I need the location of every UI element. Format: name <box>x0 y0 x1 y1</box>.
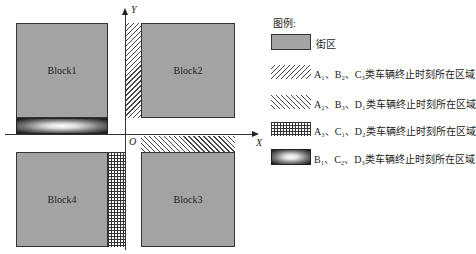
legend-swatch-backward-hatch <box>271 95 311 109</box>
legend-text-grid: A₃、C₁、D₂类车辆终止时刻所在区域 <box>314 123 476 138</box>
block-3: Block3 <box>141 152 235 247</box>
legend-text-forward-hatch: A₁、B₂、C₃类车辆终止时刻所在区域 <box>314 66 475 81</box>
zone-backward-hatch <box>141 136 235 152</box>
legend-swatch-forward-hatch <box>271 65 311 79</box>
block-2-label: Block2 <box>174 65 203 76</box>
x-axis-label: X <box>256 137 262 148</box>
legend-text-block: 街区 <box>316 36 336 51</box>
legend-text-gradient: B₁、C₂、D₃类车辆终止时刻所在区域 <box>314 151 475 166</box>
zone-grid <box>108 152 125 247</box>
block-4-label: Block4 <box>48 194 77 205</box>
zone-forward-hatch <box>125 23 141 118</box>
legend-swatch-gradient <box>271 149 311 165</box>
legend-swatch-grid <box>271 122 311 136</box>
block-3-label: Block3 <box>174 194 203 205</box>
y-axis <box>125 10 126 250</box>
y-axis-arrow-icon <box>122 8 128 15</box>
zone-gradient <box>16 118 108 134</box>
y-axis-label: Y <box>131 4 137 15</box>
legend-swatch-block <box>271 34 311 50</box>
block-1: Block1 <box>16 23 108 118</box>
block-4: Block4 <box>16 152 108 247</box>
origin-label: O <box>129 136 136 147</box>
legend-title: 图例: <box>273 15 296 30</box>
block-2: Block2 <box>141 23 235 118</box>
x-axis <box>5 134 257 135</box>
block-1-label: Block1 <box>48 65 77 76</box>
legend-text-backward-hatch: A₂、B₃、D₁类车辆终止时刻所在区域 <box>314 96 476 111</box>
